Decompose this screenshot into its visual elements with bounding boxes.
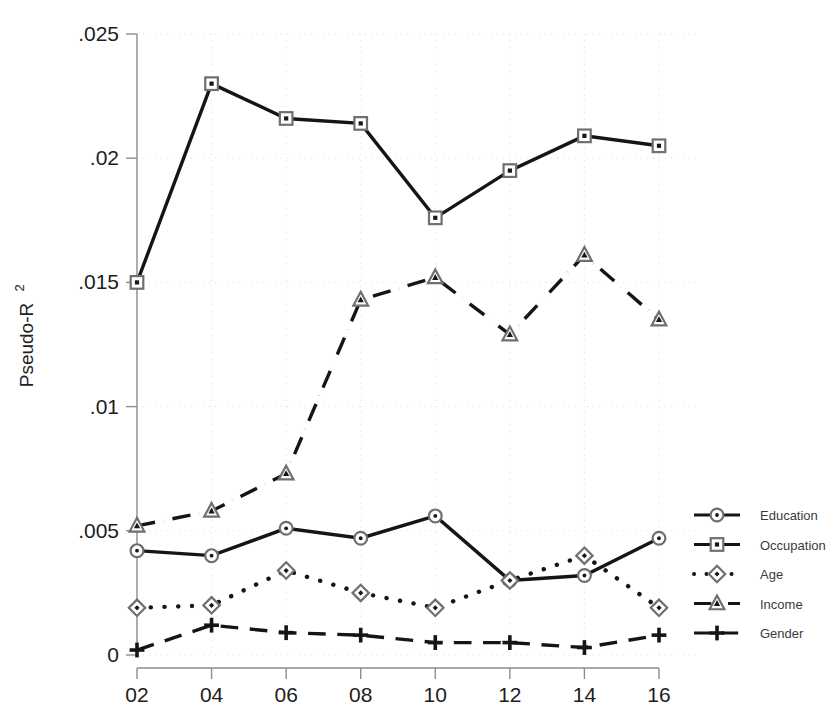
data-point-marker-plus	[710, 626, 725, 641]
legend-item-age[interactable]: Age	[694, 566, 783, 582]
data-point-marker-circle	[354, 532, 367, 545]
data-point-marker-square	[354, 117, 367, 130]
data-point-marker-square	[578, 130, 591, 143]
data-point-marker-plus	[353, 628, 368, 643]
data-point-marker-circle	[429, 509, 442, 522]
x-axis-tick-label: 12	[498, 683, 521, 706]
data-point-marker-circle	[205, 549, 218, 562]
data-point-marker-triangle	[710, 596, 725, 610]
data-point-marker-triangle	[428, 269, 443, 283]
series-gender	[130, 618, 667, 658]
y-axis-tick-label: .015	[78, 270, 119, 293]
x-axis-tick-label: 08	[349, 683, 372, 706]
data-point-marker-diamond	[709, 566, 725, 582]
y-axis-tick-label: .025	[78, 22, 119, 45]
data-point-marker-triangle	[577, 247, 592, 261]
legend-item-occupation[interactable]: Occupation	[694, 538, 826, 553]
legend-item-education[interactable]: Education	[694, 508, 818, 523]
data-point-marker-square	[711, 538, 724, 551]
x-axis-tick-label: 06	[274, 683, 297, 706]
y-axis-tick-label: .02	[90, 146, 119, 169]
data-point-marker-square	[131, 276, 144, 289]
legend-label: Education	[760, 508, 818, 523]
data-point-marker-circle	[280, 522, 293, 535]
data-point-marker-square	[429, 212, 442, 225]
x-axis-tick-label: 02	[125, 683, 148, 706]
data-point-marker-diamond	[353, 585, 369, 601]
data-point-marker-plus	[428, 635, 443, 650]
data-point-marker-plus	[577, 640, 592, 655]
legend-label: Occupation	[760, 538, 826, 553]
y-axis-title-superscript: 2	[12, 284, 27, 291]
y-axis-title-text: Pseudo-R	[16, 303, 37, 388]
pseudo-r2-line-chart: 0.005.01.015.02.025 0204060810121416 Edu…	[0, 0, 830, 712]
legend-item-income[interactable]: Income	[694, 596, 803, 612]
y-axis-tick-labels: 0.005.01.015.02.025	[78, 22, 119, 666]
data-point-marker-triangle	[652, 312, 667, 326]
data-point-marker-diamond	[427, 600, 443, 616]
legend-item-gender[interactable]: Gender	[694, 626, 804, 641]
data-point-marker-square	[205, 77, 218, 90]
data-point-marker-triangle	[279, 466, 294, 480]
series-income	[130, 247, 667, 532]
data-point-marker-circle	[578, 569, 591, 582]
x-axis-tick-label: 16	[647, 683, 670, 706]
y-axis-tick-label: .01	[90, 395, 119, 418]
y-axis-tick-label: .005	[78, 519, 119, 542]
data-point-marker-diamond	[203, 597, 219, 613]
data-point-marker-diamond	[576, 547, 592, 563]
series-layer	[129, 77, 667, 657]
data-point-marker-diamond	[651, 600, 667, 616]
data-point-marker-circle	[711, 509, 724, 522]
chart-container: 0.005.01.015.02.025 0204060810121416 Edu…	[0, 0, 830, 712]
data-point-marker-square	[504, 164, 517, 177]
chart-legend: EducationOccupationAgeIncomeGender	[694, 508, 826, 641]
x-axis-tick-label: 14	[573, 683, 597, 706]
legend-label: Gender	[760, 626, 804, 641]
series-line	[137, 255, 659, 526]
data-point-marker-circle	[131, 544, 144, 557]
data-point-marker-plus	[279, 625, 294, 640]
x-axis-tick-label: 10	[424, 683, 447, 706]
data-point-marker-triangle	[353, 292, 368, 306]
x-axis-tick-label: 04	[200, 683, 224, 706]
data-point-marker-square	[280, 112, 293, 125]
data-point-marker-plus	[652, 628, 667, 643]
x-axis-tick-labels: 0204060810121416	[125, 683, 670, 706]
data-point-marker-diamond	[278, 562, 294, 578]
legend-label: Income	[760, 597, 803, 612]
data-point-marker-circle	[653, 532, 666, 545]
data-point-marker-plus	[204, 618, 219, 633]
y-axis-tick-label: 0	[107, 643, 119, 666]
y-axis-title: Pseudo-R2	[12, 284, 37, 387]
legend-label: Age	[760, 567, 783, 582]
data-point-marker-diamond	[129, 600, 145, 616]
data-point-marker-plus	[502, 635, 517, 650]
data-point-marker-square	[653, 139, 666, 152]
